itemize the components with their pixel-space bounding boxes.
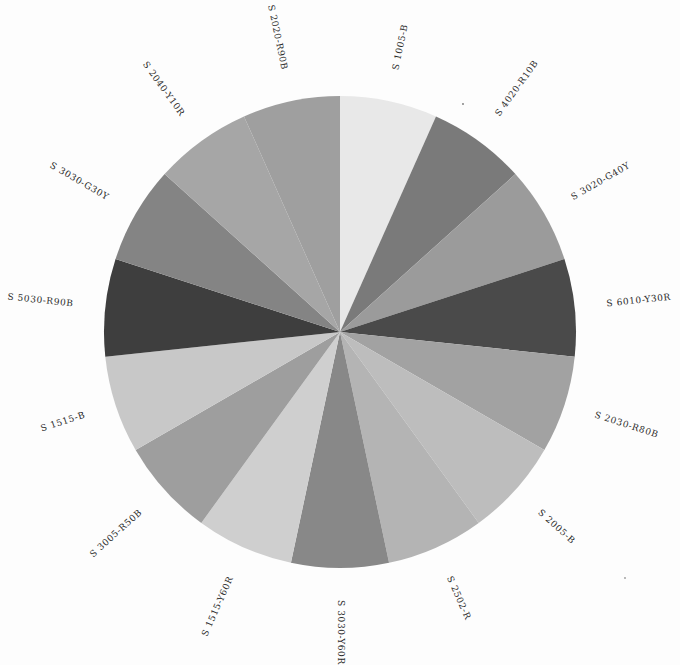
slice-label: S 2020-R90B (266, 4, 290, 71)
slice-label: S 2040-Y10R (141, 60, 187, 118)
pie-chart: S 1005-BS 4020-R10BS 3020-G40YS 6010-Y30… (0, 0, 680, 665)
slice-label: S 1515-Y60R (200, 575, 235, 638)
slice-label: S 2005-B (536, 507, 577, 545)
slice-label: S 3030-G30Y (48, 160, 111, 202)
slice-label: S 4020-R10B (493, 58, 540, 118)
slice-label: S 6010-Y30R (606, 292, 671, 309)
slice-label: S 2502-R (445, 575, 473, 622)
slice-label: S 3030-Y60R (336, 600, 346, 665)
slice-label: S 1005-B (390, 23, 409, 70)
slice-label: S 5030-R90B (7, 292, 74, 309)
stray-dot (624, 577, 626, 579)
slice-label: S 1515-B (39, 410, 86, 434)
slice-label: S 3020-G40Y (569, 160, 632, 202)
stray-dot (462, 103, 464, 105)
slice-label: S 3005-R50B (88, 507, 144, 559)
pie-slices (104, 96, 576, 568)
slice-label: S 2030-R80B (593, 410, 659, 440)
